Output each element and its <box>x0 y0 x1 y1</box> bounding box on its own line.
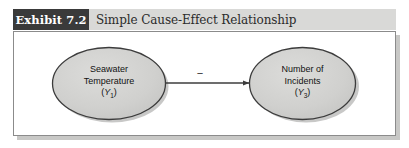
cause-variable-close-paren: ) <box>114 87 117 97</box>
exhibit-number-badge: Exhibit 7.2 <box>13 9 89 30</box>
exhibit-title: Simple Cause-Effect Relationship <box>96 9 296 30</box>
cause-node-line-2: Temperature <box>84 76 135 86</box>
cause-node-line-1: Seawater <box>90 64 128 74</box>
cause-node-label: Seawater Temperature (Y1) <box>84 64 135 102</box>
cause-node-variable: (Y1) <box>101 87 117 97</box>
relationship-sign-label: − <box>192 68 208 78</box>
effect-node-line-1: Number of <box>281 64 323 74</box>
cause-node: Seawater Temperature (Y1) <box>52 47 166 120</box>
effect-node: Number of Incidents (Y3) <box>249 47 356 120</box>
effect-node-label: Number of Incidents (Y3) <box>281 64 323 102</box>
effect-variable-close-paren: ) <box>307 87 310 97</box>
effect-node-variable: (Y3) <box>295 87 311 97</box>
exhibit-figure: Exhibit 7.2 Simple Cause-Effect Relation… <box>0 0 409 148</box>
effect-node-line-2: Incidents <box>284 76 320 86</box>
